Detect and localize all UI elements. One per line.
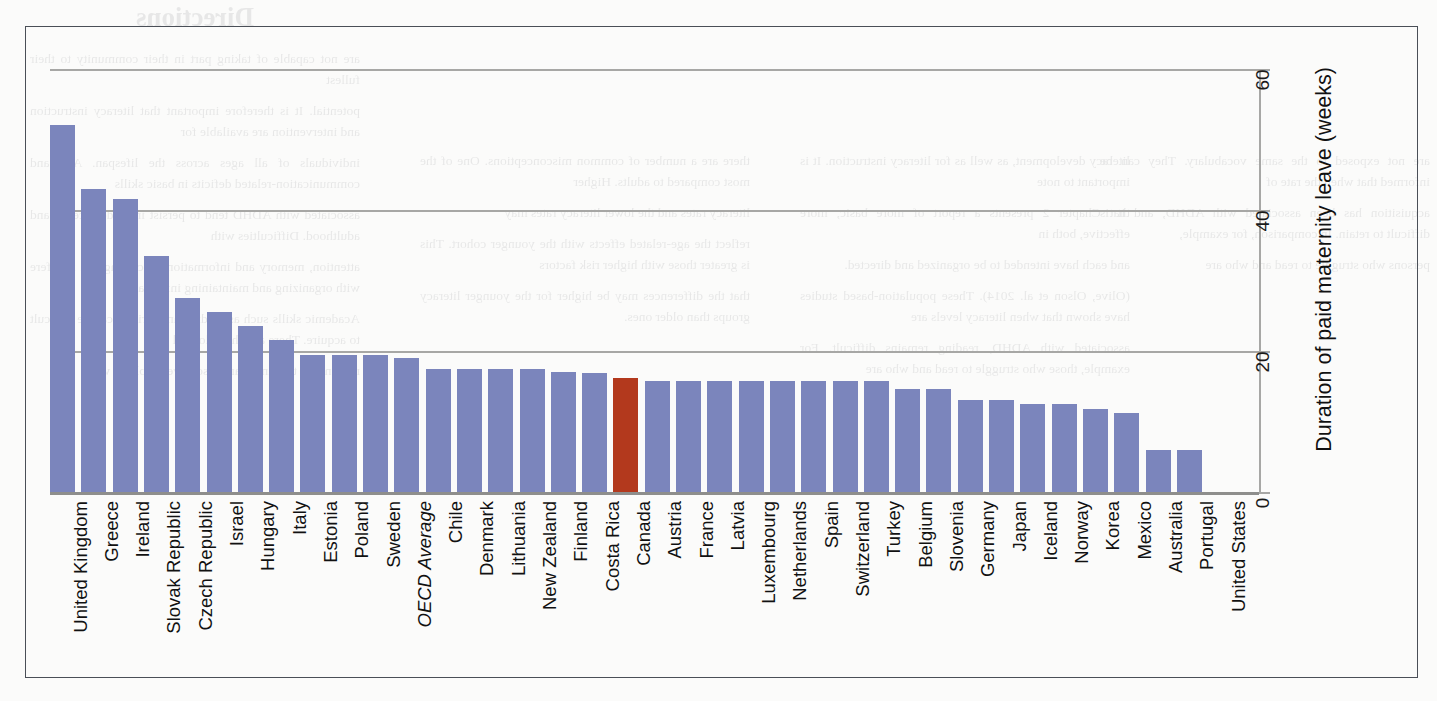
category-label-luxembourg: Luxembourg	[758, 501, 780, 604]
bar-hungary	[238, 326, 263, 492]
category-label-ireland: Ireland	[132, 501, 154, 558]
category-label-australia: Australia	[1165, 501, 1187, 573]
category-label-denmark: Denmark	[476, 501, 498, 576]
bar-turkey	[864, 381, 889, 492]
category-label-israel: Israel	[226, 501, 248, 546]
bar-israel	[207, 312, 232, 492]
bar-costa-rica	[582, 373, 607, 492]
bar-italy	[269, 340, 294, 492]
bar-mexico	[1114, 413, 1139, 492]
bar-switzerland	[833, 381, 858, 492]
bar-estonia	[300, 355, 325, 492]
bar-poland	[332, 355, 357, 492]
category-label-spain: Spain	[821, 501, 843, 548]
bar-spain	[801, 381, 826, 492]
category-label-switzerland: Switzerland	[852, 501, 874, 597]
category-label-new-zealand: New Zealand	[539, 501, 561, 610]
category-label-italy: Italy	[289, 501, 311, 535]
plot-area: 0204060 United KingdomGreeceIrelandSlova…	[50, 69, 1259, 492]
bar-germany	[958, 400, 983, 492]
bar-canada	[613, 378, 638, 492]
category-label-czech-republic: Czech Republic	[195, 501, 217, 631]
y-axis-line	[1259, 69, 1261, 494]
gridline-0	[50, 492, 1259, 495]
bar-luxembourg	[739, 381, 764, 492]
bar-france	[676, 381, 701, 492]
bar-slovenia	[926, 389, 951, 492]
y-tick-0	[1259, 492, 1270, 494]
bar-denmark	[457, 369, 482, 492]
bar-austria	[645, 381, 670, 492]
bar-greece	[81, 189, 106, 492]
category-label-estonia: Estonia	[320, 501, 342, 563]
category-label-sweden: Sweden	[383, 501, 405, 568]
bar-belgium	[895, 389, 920, 492]
bar-oecd-average	[394, 358, 419, 492]
category-label-lithuania: Lithuania	[508, 501, 530, 576]
category-label-canada: Canada	[633, 501, 655, 566]
category-label-slovenia: Slovenia	[946, 501, 968, 572]
category-label-portugal: Portugal	[1196, 501, 1218, 570]
y-tick-label-20: 20	[1252, 351, 1274, 372]
category-label-united-kingdom: United Kingdom	[70, 501, 92, 633]
bar-sweden	[363, 355, 388, 492]
category-label-oecd-average: OECD Average	[414, 501, 436, 627]
bar-united-kingdom	[50, 125, 75, 492]
bar-series	[50, 69, 1259, 492]
category-label-netherlands: Netherlands	[789, 501, 811, 601]
category-label-greece: Greece	[101, 501, 123, 562]
bar-lithuania	[488, 369, 513, 492]
bar-chile	[426, 369, 451, 492]
bar-latvia	[707, 381, 732, 492]
bar-ireland	[113, 199, 138, 492]
category-label-latvia: Latvia	[727, 501, 749, 550]
category-label-finland: Finland	[570, 501, 592, 562]
category-label-chile: Chile	[445, 501, 467, 543]
bar-korea	[1083, 409, 1108, 492]
category-label-france: France	[696, 501, 718, 559]
bar-norway	[1052, 404, 1077, 492]
bar-portugal	[1177, 450, 1202, 492]
category-label-costa-rica: Costa Rica	[602, 501, 624, 591]
category-label-korea: Korea	[1102, 501, 1124, 550]
bar-slovak-republic	[144, 256, 169, 492]
category-label-austria: Austria	[664, 501, 686, 559]
category-label-mexico: Mexico	[1134, 501, 1156, 560]
y-tick-label-40: 40	[1252, 210, 1274, 231]
bar-netherlands	[770, 381, 795, 492]
bar-japan	[989, 400, 1014, 492]
bar-iceland	[1020, 404, 1045, 492]
category-label-turkey: Turkey	[883, 501, 905, 557]
bar-australia	[1146, 450, 1171, 492]
y-tick-label-60: 60	[1252, 69, 1274, 90]
figure-frame: 0204060 United KingdomGreeceIrelandSlova…	[25, 26, 1418, 678]
category-label-japan: Japan	[1009, 501, 1031, 551]
category-label-belgium: Belgium	[915, 501, 937, 568]
category-label-slovak-republic: Slovak Republic	[163, 501, 185, 634]
category-label-norway: Norway	[1071, 501, 1093, 564]
bar-new-zealand	[520, 369, 545, 492]
bar-czech-republic	[175, 298, 200, 492]
bar-finland	[551, 372, 576, 492]
category-label-united-states: United States	[1228, 501, 1250, 612]
category-label-iceland: Iceland	[1040, 501, 1062, 561]
y-axis-title: Duration of paid maternity leave (weeks)	[1312, 67, 1437, 452]
category-label-germany: Germany	[977, 501, 999, 577]
category-label-hungary: Hungary	[257, 501, 279, 571]
category-label-poland: Poland	[351, 501, 373, 559]
y-tick-label-0: 0	[1252, 498, 1274, 509]
